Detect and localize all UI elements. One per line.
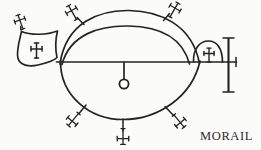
left-banner-shield <box>13 13 58 66</box>
upper-inner-arc <box>62 26 190 65</box>
figure-caption: MORAIL <box>200 130 253 143</box>
cross-lower-center <box>117 129 128 145</box>
cross-upper-right <box>165 0 183 19</box>
right-mast <box>223 38 236 92</box>
pendant <box>119 63 128 89</box>
cross-right-arch <box>204 48 214 62</box>
morail-figure <box>0 0 261 150</box>
hull-arcs <box>57 10 237 119</box>
figure-page: MORAIL <box>0 0 261 150</box>
pendant-ring <box>119 79 128 88</box>
